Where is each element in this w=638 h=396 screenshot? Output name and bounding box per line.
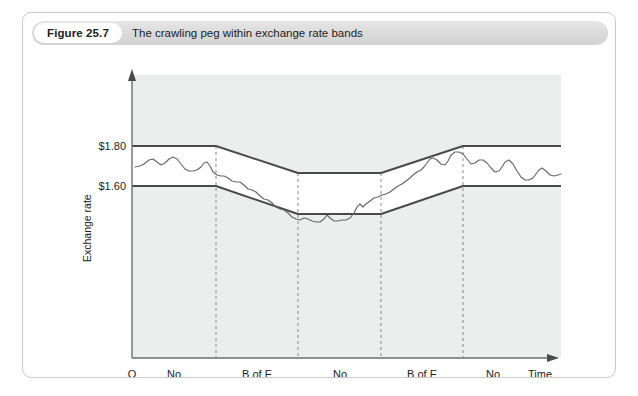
figure-number-badge: Figure 25.7 xyxy=(34,23,122,43)
phase-label-1-line1: No xyxy=(167,368,181,377)
y-tick-label-upper: $1.80 xyxy=(98,140,126,152)
phase-label-5-line1: No xyxy=(486,368,500,377)
x-axis-title: Time xyxy=(528,368,552,377)
origin-label: O xyxy=(128,368,137,377)
chart-plot-area: $1.80 $1.60 Exchange rate O Time No inte… xyxy=(23,47,617,377)
figure-card: Figure 25.7 The crawling peg within exch… xyxy=(22,12,616,378)
plot-background xyxy=(132,75,561,358)
y-tick-label-lower: $1.60 xyxy=(98,180,126,192)
y-axis-title: Exchange rate xyxy=(81,194,93,262)
exchange-rate-band-chart: $1.80 $1.60 Exchange rate O Time No inte… xyxy=(23,47,617,377)
figure-caption-bar: Figure 25.7 The crawling peg within exch… xyxy=(32,21,608,45)
phase-label-3-line1: No xyxy=(333,368,347,377)
phase-label-2-line1: B of E xyxy=(242,368,272,377)
figure-caption-text: The crawling peg within exchange rate ba… xyxy=(132,21,363,45)
phase-label-4-line1: B of E xyxy=(407,368,437,377)
